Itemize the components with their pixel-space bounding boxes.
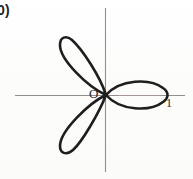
lower-left-petal-path [60, 95, 106, 153]
origin-label: O [89, 87, 98, 100]
rose-curve-figure: 0) O 1 [0, 0, 193, 179]
x-axis-tick-label-one: 1 [166, 97, 172, 109]
upper-left-petal-path [60, 37, 106, 95]
problem-number-label: 0) [0, 3, 10, 17]
